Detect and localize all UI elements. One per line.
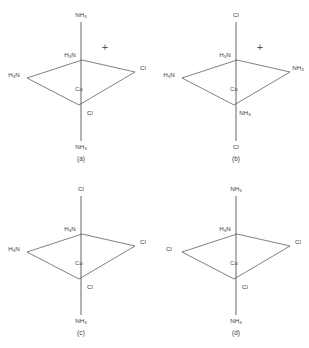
charge-sign-b: +	[257, 42, 264, 53]
ligand-equatorial-back-d: H3N	[219, 226, 231, 232]
ligand-axial-bottom-b: Cl	[233, 144, 239, 150]
ligand-axial-top-b: Cl	[233, 12, 239, 18]
ligand-equatorial-front-c: Cl	[87, 284, 93, 290]
ligand-axial-top-c: Cl	[78, 186, 84, 192]
ligand-equatorial-right-d: Cl	[295, 239, 301, 245]
ligand-equatorial-left-b: H3N	[163, 72, 175, 78]
ligand-equatorial-left-c: H3N	[8, 246, 20, 252]
ligand-equatorial-back-a: H3N	[64, 52, 76, 58]
structure-d: NH3NH3H3NClClClCo(d)	[155, 174, 309, 348]
ligand-equatorial-right-c: Cl	[140, 239, 146, 245]
ligand-equatorial-left-a: H3N	[8, 72, 20, 78]
structure-caption-a: (a)	[77, 156, 85, 162]
structure-caption-c: (c)	[77, 330, 85, 336]
chemical-structures-figure: NH3NH3H3NH3NClClCo+(a)ClClH3NH3NNH3NH3Co…	[0, 0, 309, 348]
ligand-axial-bottom-c: NH3	[75, 318, 87, 324]
ligand-equatorial-left-d: Cl	[166, 246, 172, 252]
structure-caption-b: (b)	[232, 156, 240, 162]
ligand-axial-top-d: NH3	[230, 186, 242, 192]
metal-center-label-a: Co	[75, 86, 83, 92]
ligand-equatorial-right-a: Cl	[140, 65, 146, 71]
structure-caption-d: (d)	[232, 330, 240, 336]
structure-b: ClClH3NH3NNH3NH3Co+(b)	[155, 0, 309, 174]
charge-sign-a: +	[102, 42, 109, 53]
metal-center-label-c: Co	[75, 260, 83, 266]
ligand-equatorial-front-d: Cl	[242, 284, 248, 290]
structure-c: ClNH3H3NH3NClClCo(c)	[0, 174, 155, 348]
metal-center-label-b: Co	[230, 86, 238, 92]
ligand-equatorial-back-b: H3N	[219, 52, 231, 58]
ligand-equatorial-front-a: Cl	[87, 110, 93, 116]
ligand-axial-bottom-a: NH3	[75, 144, 87, 150]
ligand-equatorial-right-b: NH3	[292, 65, 304, 71]
metal-center-label-d: Co	[230, 260, 238, 266]
structure-a: NH3NH3H3NH3NClClCo+(a)	[0, 0, 155, 174]
ligand-equatorial-front-b: NH3	[239, 110, 251, 116]
ligand-axial-top-a: NH3	[75, 12, 87, 18]
ligand-axial-bottom-d: NH3	[230, 318, 242, 324]
ligand-equatorial-back-c: H3N	[64, 226, 76, 232]
